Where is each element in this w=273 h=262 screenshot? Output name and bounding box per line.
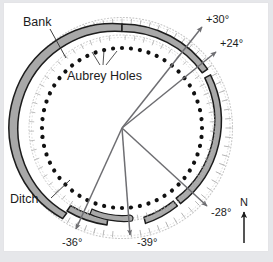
aubrey-hole — [120, 46, 124, 50]
aubrey-hole — [47, 160, 53, 166]
aubrey-hole — [146, 201, 151, 206]
aubrey-hole — [137, 48, 142, 53]
aubrey-hole — [57, 75, 63, 81]
label-aubrey-holes: Aubrey Holes — [67, 69, 142, 83]
ray-plus-24-line — [122, 52, 216, 128]
aubrey-hole — [44, 99, 49, 104]
aubrey-hole — [120, 206, 124, 210]
aubrey-hole — [199, 117, 204, 122]
aubrey-hole — [162, 57, 168, 63]
label-ray-minus-28: -28° — [211, 206, 231, 218]
north-arrow: N — [240, 196, 248, 243]
aubrey-hole — [199, 135, 204, 140]
aubrey-hole — [176, 68, 182, 74]
aubrey-hole — [197, 108, 202, 113]
aubrey-hole — [69, 63, 75, 69]
stonehenge-plan-svg: Bank Aubrey Holes Ditch +30° +24° -28° -… — [4, 3, 268, 251]
aubrey-hole — [51, 83, 57, 89]
label-ray-plus-30: +30° — [206, 13, 229, 25]
aubrey-hole — [195, 99, 200, 104]
aubrey-hole — [77, 57, 83, 63]
aubrey-hole — [197, 143, 202, 148]
aubrey-hole — [40, 135, 45, 140]
label-ray-minus-36: -39° — [137, 236, 157, 248]
aubrey-hole — [42, 143, 47, 148]
aubrey-hole — [85, 53, 91, 59]
aubrey-hole — [154, 197, 160, 203]
aubrey-hole — [195, 152, 200, 157]
aubrey-hole — [191, 91, 197, 97]
aubrey-hole — [187, 168, 193, 174]
aubrey-hole — [111, 46, 116, 51]
aubrey-hole — [146, 50, 151, 55]
aubrey-hole — [154, 53, 160, 59]
leader-lines — [50, 29, 117, 198]
aubrey-hole — [162, 193, 168, 199]
label-ray-minus-39: -36° — [62, 236, 82, 248]
aubrey-hole — [111, 205, 116, 210]
aubrey-hole — [182, 175, 188, 181]
label-ditch: Ditch — [10, 192, 39, 206]
aubrey-hole — [137, 203, 142, 208]
aubrey-hole — [129, 205, 134, 210]
aubrey-hole — [187, 83, 193, 89]
label-ray-plus-24: +24° — [220, 37, 243, 49]
aubrey-hole — [129, 46, 134, 51]
aubrey-hole — [191, 160, 197, 166]
aubrey-hole — [102, 203, 107, 208]
diagram-canvas: Bank Aubrey Holes Ditch +30° +24° -28° -… — [4, 3, 268, 251]
aubrey-hole — [40, 117, 45, 122]
ditch-leader-line — [51, 180, 70, 198]
aubrey-hole — [77, 193, 83, 199]
label-bank: Bank — [23, 15, 52, 29]
aubrey-hole — [42, 108, 47, 113]
aubrey-hole — [69, 188, 75, 194]
aubrey-hole — [44, 152, 49, 157]
aubrey-hole — [51, 168, 57, 174]
aubrey-hole — [40, 126, 44, 130]
aubrey-hole — [169, 188, 175, 194]
label-north: N — [240, 196, 248, 208]
aubrey-hole — [47, 91, 53, 97]
aubrey-hole — [57, 175, 63, 181]
figure-root: Bank Aubrey Holes Ditch +30° +24° -28° -… — [0, 0, 273, 262]
aubrey-hole — [200, 126, 204, 130]
aubrey-hole — [93, 201, 98, 206]
